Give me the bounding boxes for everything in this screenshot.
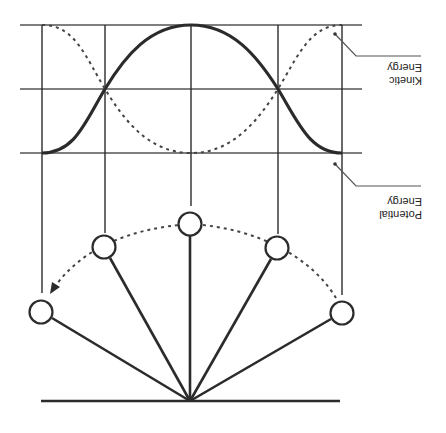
potential-leader-line (335, 164, 421, 186)
kinetic-label-line2: Energy (387, 62, 422, 74)
rod-4 (190, 259, 271, 401)
potential-label-line1: Potential (379, 209, 422, 221)
bob-4 (266, 237, 289, 260)
pendulum-rods (52, 236, 331, 401)
swing-arrowhead-icon (50, 282, 60, 294)
pendulum-bobs (30, 213, 354, 325)
pendulum-energy-diagram: Kinetic Energy Potential Energy (0, 0, 446, 433)
kinetic-leader-line (335, 34, 421, 56)
rod-5 (190, 319, 331, 401)
potential-energy-label: Potential Energy (379, 196, 422, 221)
bob-2 (93, 236, 116, 259)
kinetic-leader (333, 32, 421, 56)
vertical-projection-lines (42, 25, 342, 295)
kinetic-label-line1: Kinetic (388, 75, 422, 87)
rod-2 (110, 258, 190, 401)
rod-1 (52, 318, 190, 401)
potential-label-line2: Energy (387, 196, 422, 208)
kinetic-leader-dot (333, 32, 337, 36)
bob-5 (331, 302, 354, 325)
kinetic-energy-label: Kinetic Energy (387, 62, 422, 87)
bob-1 (30, 301, 53, 324)
potential-leader-dot (333, 162, 337, 166)
potential-leader (333, 162, 421, 186)
bob-3 (179, 213, 202, 236)
